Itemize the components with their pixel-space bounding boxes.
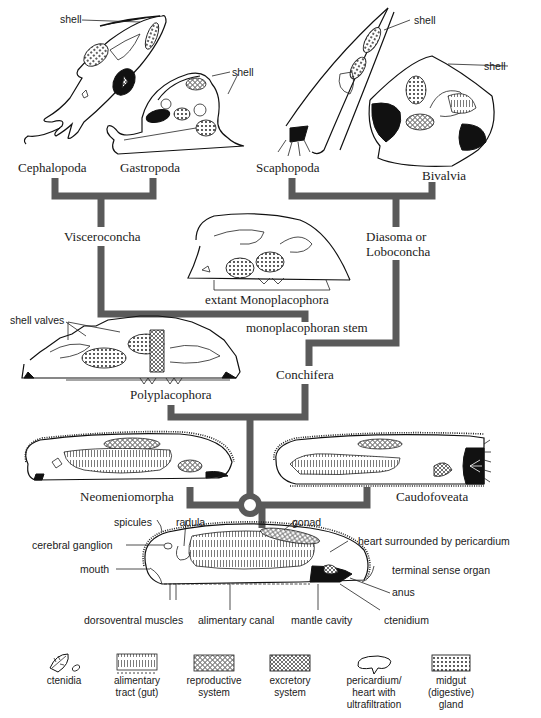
alimentary-tract-icon [117, 654, 157, 670]
ancestral-mollusc-drawing [116, 520, 390, 610]
cephalopoda-drawing [24, 16, 166, 144]
taxon-neomeniomorpha: Neomeniomorpha [80, 489, 174, 505]
callout-shell-cephalopoda: shell [60, 13, 82, 25]
taxon-monoplacophoran-stem: monoplacophoran stem [246, 320, 368, 336]
label-alimentary-canal: alimentary canal [198, 614, 274, 626]
ctenidia-icon [50, 654, 81, 672]
leader-anus [350, 578, 390, 593]
taxon-conchifera: Conchifera [276, 367, 334, 383]
caudofoveata-drawing [274, 433, 491, 486]
legend-item-alimentary-tract: alimentary tract (gut) [104, 675, 170, 699]
taxon-cephalopoda: Cephalopoda [18, 160, 87, 176]
monoplacophora-drawing [188, 214, 350, 290]
excretory-system-icon [270, 655, 310, 671]
label-mantle-cavity: mantle cavity [291, 614, 352, 626]
callout-shell-bivalvia: shell [484, 60, 506, 72]
callout-shell-scaphopoda: shell [414, 14, 436, 26]
taxon-caudofoveata: Caudofoveata [396, 489, 468, 505]
label-gonad: gonad [292, 516, 321, 528]
phylogeny-diagram [0, 0, 541, 718]
legend-item-excretory-system: excretory system [258, 675, 322, 699]
label-spicules: spicules [114, 516, 152, 528]
legend-item-pericardium: pericardium/ heart with ultrafiltration [336, 675, 412, 711]
taxon-visceroconcha: Visceroconcha [64, 229, 140, 245]
taxon-scaphopoda: Scaphopoda [256, 160, 320, 176]
taxon-diasoma-line1: Diasoma or [366, 229, 426, 245]
label-terminal-sense-organ: terminal sense organ [392, 564, 490, 576]
leader-shell-scaphopoda [384, 20, 410, 30]
label-heart: heart surrounded by pericardium [358, 535, 510, 547]
taxon-gastropoda: Gastropoda [120, 160, 180, 176]
taxon-bivalvia: Bivalvia [422, 168, 466, 184]
label-cerebral-ganglion: cerebral ganglion [32, 539, 113, 551]
midgut-gland-icon [432, 655, 470, 671]
callout-shell-valves: shell valves [10, 314, 64, 326]
scaphopoda-drawing [278, 8, 394, 156]
reproductive-system-icon [194, 655, 234, 671]
legend-item-reproductive-system: reproductive system [176, 675, 252, 699]
label-radula: radula [176, 516, 205, 528]
legend-icons [50, 654, 470, 674]
taxon-polyplacophora: Polyplacophora [130, 387, 212, 403]
ancestor-node [241, 496, 259, 514]
leader-spicules [157, 520, 162, 532]
neomeniomorpha-drawing [25, 432, 234, 480]
bivalvia-drawing [369, 56, 494, 166]
taxon-monoplacophora: extant Monoplacophora [205, 292, 329, 308]
leader-ctenidium [340, 584, 380, 610]
label-ctenidium: ctenidium [384, 614, 429, 626]
legend-item-midgut-gland: midgut (digestive) gland [420, 675, 482, 711]
callout-shell-gastropoda: shell [232, 66, 254, 78]
label-mouth: mouth [80, 563, 109, 575]
leader-heart [330, 541, 348, 552]
pericardium-icon [358, 656, 391, 674]
taxon-diasoma-line2: Loboconcha [366, 244, 430, 260]
legend-item-ctenidia: ctenidia [34, 675, 94, 687]
label-anus: anus [392, 586, 415, 598]
label-dorsoventral-muscles: dorsoventral muscles [84, 614, 183, 626]
